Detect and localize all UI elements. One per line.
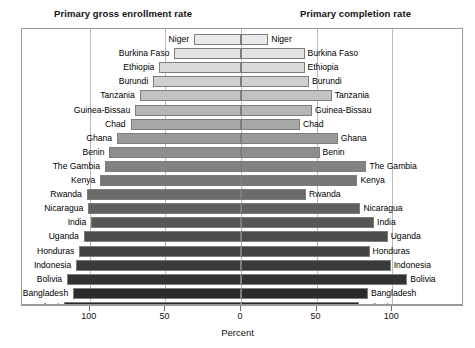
tick-label-1: 50 xyxy=(144,311,184,321)
row-label-left: The Gambia xyxy=(53,160,100,172)
row-label-left: Ghana xyxy=(86,132,112,144)
bar-completion xyxy=(241,105,312,116)
row-label-left: Chad xyxy=(105,118,126,130)
bar-enrollment xyxy=(105,161,241,172)
bar-enrollment xyxy=(73,288,241,299)
bar-completion xyxy=(241,217,374,228)
bar-enrollment xyxy=(87,189,241,200)
row-label-left: Burundi xyxy=(119,75,149,87)
bar-enrollment xyxy=(79,246,241,257)
bar-rows: NigerNigerBurkina FasoBurkina FasoEthiop… xyxy=(22,29,462,304)
row-label-right: Ghana xyxy=(341,132,367,144)
plot-area: NigerNigerBurkina FasoBurkina FasoEthiop… xyxy=(21,28,463,305)
row-label-left: India xyxy=(68,216,87,228)
chart-row: HondurasHonduras xyxy=(22,246,462,257)
row-label-left: Honduras xyxy=(37,245,74,257)
row-label-left: Tanzania xyxy=(100,89,134,101)
row-label-left: Benin xyxy=(82,146,104,158)
bar-enrollment xyxy=(131,119,241,130)
row-label-right: Rwanda xyxy=(309,188,341,200)
chart-row: IndiaIndia xyxy=(22,217,462,228)
row-label-right: Burundi xyxy=(312,75,342,87)
chart-row: RwandaRwanda xyxy=(22,189,462,200)
bar-enrollment xyxy=(88,203,241,214)
bar-enrollment xyxy=(84,231,241,242)
row-label-right: Bolivia xyxy=(410,273,435,285)
row-label-left: Burkina Faso xyxy=(119,47,170,59)
bar-enrollment xyxy=(174,48,241,59)
bar-enrollment xyxy=(91,217,241,228)
chart-row: GhanaGhana xyxy=(22,133,462,144)
bar-enrollment xyxy=(117,133,241,144)
row-label-left: Bolivia xyxy=(37,273,62,285)
row-label-right: Tanzania xyxy=(335,89,369,101)
chart-row: BoliviaBolivia xyxy=(22,274,462,285)
bar-completion xyxy=(241,161,366,172)
chart-row: IndonesiaIndonesia xyxy=(22,260,462,271)
row-label-right: The Gambia xyxy=(369,160,416,172)
row-label-right: Honduras xyxy=(373,245,410,257)
bar-enrollment xyxy=(135,105,241,116)
row-label-right: India xyxy=(377,216,396,228)
bar-completion xyxy=(241,62,305,73)
bar-completion xyxy=(241,260,391,271)
bar-completion xyxy=(241,189,306,200)
bar-completion xyxy=(241,175,357,186)
chart-canvas: Primary gross enrollment rate Primary co… xyxy=(0,0,475,348)
chart-row: UgandaUganda xyxy=(22,231,462,242)
row-label-left: Indonesia xyxy=(34,259,71,271)
bar-completion xyxy=(241,34,268,45)
chart-row: The GambiaThe Gambia xyxy=(22,161,462,172)
bar-completion xyxy=(241,119,300,130)
row-label-right: Niger xyxy=(271,33,292,45)
row-label-left: Kenya xyxy=(71,174,95,186)
row-label-right: Indonesia xyxy=(394,259,431,271)
chart-row: EthiopiaEthiopia xyxy=(22,62,462,73)
row-label-left: Ethiopia xyxy=(123,61,154,73)
bar-enrollment xyxy=(76,260,241,271)
bar-enrollment xyxy=(67,274,241,285)
row-label-right: Uganda xyxy=(391,230,421,242)
tick-label-3: 50 xyxy=(296,311,336,321)
bar-completion xyxy=(241,133,338,144)
bar-completion xyxy=(241,48,305,59)
row-label-right: Burkina Faso xyxy=(308,47,359,59)
bar-completion xyxy=(241,274,407,285)
bar-completion xyxy=(241,246,370,257)
row-label-left: Niger xyxy=(169,33,190,45)
tick-label-0: 100 xyxy=(69,311,109,321)
row-label-left: Uganda xyxy=(49,230,79,242)
right-series-title: Primary completion rate xyxy=(300,8,411,19)
row-label-right: Benin xyxy=(323,146,345,158)
left-series-title: Primary gross enrollment rate xyxy=(54,8,192,19)
chart-row: BeninBenin xyxy=(22,147,462,158)
row-label-left: Nicaragua xyxy=(44,202,83,214)
row-label-left: Bangladesh xyxy=(23,287,68,299)
bar-enrollment xyxy=(153,76,241,87)
chart-row: TanzaniaTanzania xyxy=(22,90,462,101)
bar-completion xyxy=(241,288,368,299)
row-label-right: Bangladesh xyxy=(371,287,416,299)
row-label-right: Kenya xyxy=(360,174,384,186)
bar-completion xyxy=(241,203,360,214)
chart-row: NicaraguaNicaragua xyxy=(22,203,462,214)
row-label-right: Chad xyxy=(303,118,324,130)
bar-completion xyxy=(241,147,320,158)
bar-enrollment xyxy=(159,62,241,73)
row-label-right: Nicaragua xyxy=(363,202,402,214)
bar-completion xyxy=(241,231,388,242)
bar-enrollment xyxy=(100,175,241,186)
bar-completion xyxy=(241,76,309,87)
bar-enrollment xyxy=(109,147,241,158)
chart-row: KenyaKenya xyxy=(22,175,462,186)
row-label-right: Guinea-Bissau xyxy=(315,104,371,116)
x-axis-line xyxy=(21,305,463,306)
bar-completion xyxy=(241,90,332,101)
row-label-right: Ethiopia xyxy=(308,61,339,73)
row-label-left: Guinea-Bissau xyxy=(74,104,130,116)
chart-row: BurundiBurundi xyxy=(22,76,462,87)
chart-row: Burkina FasoBurkina Faso xyxy=(22,48,462,59)
chart-row: ChadChad xyxy=(22,119,462,130)
bar-enrollment xyxy=(140,90,241,101)
chart-row: BangladeshBangladesh xyxy=(22,288,462,299)
